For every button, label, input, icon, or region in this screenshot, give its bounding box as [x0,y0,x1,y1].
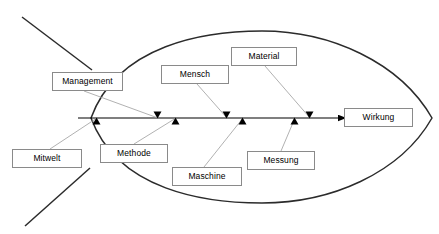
connector-management [84,91,158,118]
cause-label-messung: Messung [263,156,298,165]
fish-tail-upper [22,17,92,70]
effect-box-wirkung[interactable]: Wirkung [344,108,413,127]
cause-label-management: Management [62,77,113,86]
cause-box-maschine[interactable]: Maschine [172,167,242,186]
cause-label-mensch: Mensch [180,70,210,79]
cause-box-material[interactable]: Material [231,47,297,66]
cause-label-methode: Methode [117,149,151,158]
cause-label-mitwelt: Mitwelt [33,154,60,163]
connector-mitwelt [50,118,97,149]
cause-box-methode[interactable]: Methode [100,144,168,163]
connector-material [265,66,310,118]
cause-box-mensch[interactable]: Mensch [161,65,229,84]
cause-label-maschine: Maschine [188,172,225,181]
fishbone-diagram: Management Mensch Material Mitwelt Metho… [0,0,439,234]
connector-maschine [204,118,243,167]
connector-mensch [197,84,227,118]
cause-box-mitwelt[interactable]: Mitwelt [12,149,82,168]
cause-box-management[interactable]: Management [52,72,123,91]
connector-methode [134,118,176,144]
fish-tail-lower [25,168,90,226]
effect-label-wirkung: Wirkung [363,113,395,122]
cause-label-material: Material [248,52,279,61]
cause-box-messung[interactable]: Messung [247,151,315,170]
